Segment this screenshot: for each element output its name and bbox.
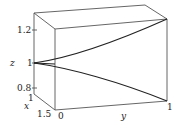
upper-curve [34, 19, 167, 63]
y-tick-0: 0 [58, 111, 64, 121]
z-axis-ticks [32, 30, 37, 88]
3d-plot: 1.2 z 1 0.8 1 x 1.5 0 y 1 [0, 0, 179, 128]
lower-curve [34, 63, 167, 101]
x-axis-label: x [24, 101, 29, 111]
z-tick-0-8: 0.8 [17, 83, 32, 93]
x-tick-1-5: 1.5 [37, 109, 52, 119]
y-axis-label: y [120, 111, 127, 121]
z-tick-1-2: 1.2 [17, 25, 31, 35]
z-axis-label: z [9, 58, 15, 68]
z-tick-1: 1 [27, 58, 33, 68]
y-tick-1: 1 [167, 102, 173, 112]
bounding-box [34, 5, 167, 110]
